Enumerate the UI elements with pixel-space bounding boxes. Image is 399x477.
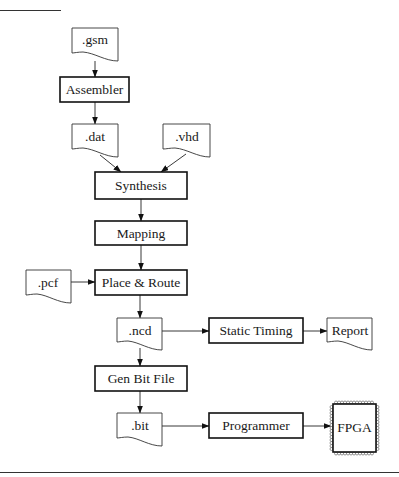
file-ncd-label: .ncd [129, 323, 152, 338]
process-gen-bit-file: Gen Bit File [95, 366, 187, 391]
file-pcf-label: .pcf [38, 275, 59, 290]
fpga-design-flow-diagram: .gsm .dat .vhd .pcf .ncd Report .bit Ass… [0, 0, 399, 477]
fpga-chip: FPGA [330, 401, 379, 455]
edge-dat-synthesis [100, 155, 121, 172]
process-mapping-label: Mapping [117, 226, 166, 241]
file-vhd-label: .vhd [175, 129, 199, 144]
file-bit-label: .bit [131, 418, 149, 433]
process-synthesis-label: Synthesis [115, 178, 167, 193]
file-report: Report [327, 318, 372, 350]
process-synthesis: Synthesis [95, 172, 187, 199]
process-assembler: Assembler [60, 77, 129, 102]
file-dat: .dat [72, 124, 118, 157]
file-vhd: .vhd [163, 124, 210, 157]
file-bit: .bit [117, 413, 162, 446]
process-mapping: Mapping [95, 221, 187, 245]
file-ncd: .ncd [117, 318, 162, 350]
fpga-label: FPGA [337, 420, 372, 435]
process-gen-bit-file-label: Gen Bit File [108, 371, 175, 386]
file-report-label: Report [332, 323, 369, 338]
process-programmer: Programmer [209, 413, 303, 438]
process-place-route-label: Place & Route [102, 275, 181, 290]
process-static-timing: Static Timing [209, 318, 303, 343]
file-dat-label: .dat [85, 129, 105, 144]
process-place-route: Place & Route [95, 270, 187, 295]
file-pcf: .pcf [26, 270, 71, 303]
edge-vhd-synthesis [161, 154, 186, 172]
file-gsm-label: .gsm [82, 32, 108, 47]
process-assembler-label: Assembler [66, 82, 124, 97]
process-programmer-label: Programmer [222, 418, 290, 433]
file-gsm: .gsm [72, 28, 118, 61]
process-static-timing-label: Static Timing [219, 323, 292, 338]
